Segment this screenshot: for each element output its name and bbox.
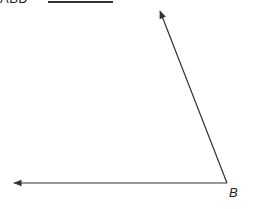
angle-diagram [0, 0, 267, 209]
ray-up-left [160, 11, 227, 183]
vertex-label-b: B [229, 185, 238, 200]
diagram-canvas: ABD B [0, 0, 267, 209]
